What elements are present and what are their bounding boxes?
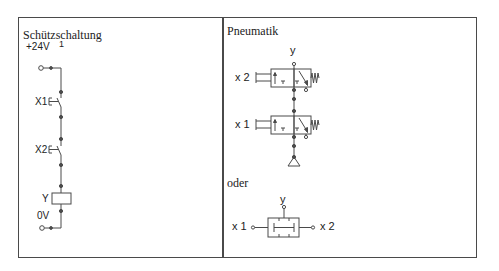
pneumatic-input-x1-label: x 1 xyxy=(235,118,250,130)
shuttle-valve xyxy=(251,205,314,237)
node-label: 1 xyxy=(59,39,64,49)
ground-label: 0V xyxy=(37,210,49,221)
shuttle-input-x1-label: x 1 xyxy=(232,220,247,232)
pneumatic-valve-x2 xyxy=(256,62,319,114)
switch-x1-label: X1 xyxy=(35,96,47,107)
pneumatic-output-y-label: y xyxy=(290,44,296,56)
shuttle-output-y-label: y xyxy=(280,193,286,205)
pneumatic-input-x2-label: x 2 xyxy=(235,71,250,83)
supply-voltage-label: +24V xyxy=(26,41,50,52)
coil-y-label: Y xyxy=(42,193,49,204)
schematic-drawing xyxy=(0,0,499,271)
shuttle-input-x2-label: x 2 xyxy=(320,220,335,232)
switch-x2-label: X2 xyxy=(35,144,47,155)
pneumatic-valve-x1 xyxy=(256,114,319,166)
